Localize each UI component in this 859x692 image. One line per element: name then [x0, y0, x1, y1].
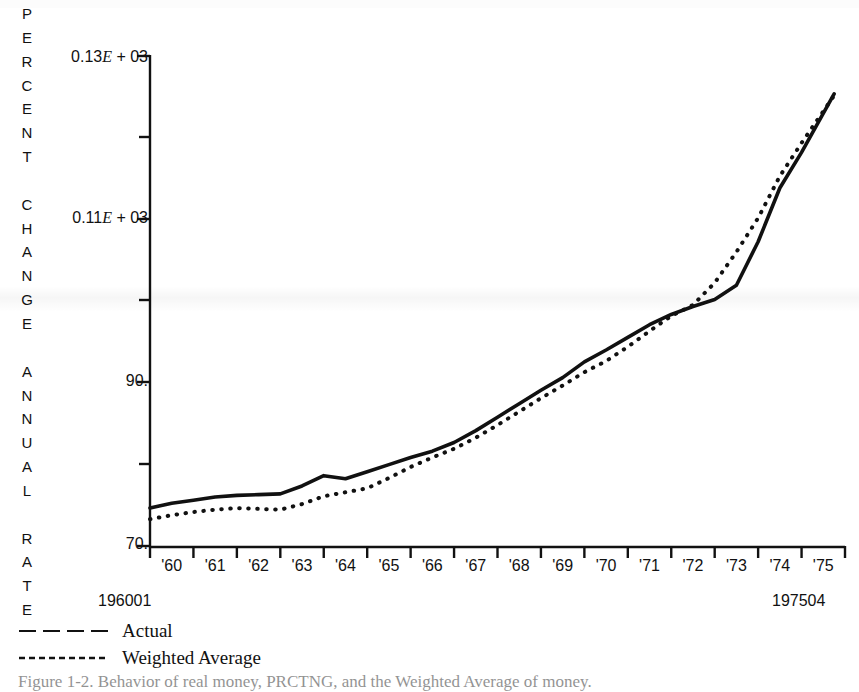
x-tick-label: '62	[237, 557, 280, 575]
x-tick-label: '71	[628, 557, 671, 575]
legend: Actual Weighted Average	[18, 617, 438, 671]
x-tick-label: '64	[324, 557, 367, 575]
series-line-weighted-average	[150, 96, 834, 520]
legend-item-actual[interactable]: Actual	[18, 617, 438, 644]
x-tick-label: '63	[280, 557, 323, 575]
y-minor-ticks	[139, 137, 150, 464]
x-tick-label: '61	[193, 557, 236, 575]
x-tick-label: '73	[715, 557, 758, 575]
axis-lines	[150, 55, 845, 547]
x-tick-label: '68	[498, 557, 541, 575]
figure-caption: Figure 1-2. Behavior of real money, PRCT…	[18, 672, 848, 692]
legend-label-actual: Actual	[122, 620, 173, 642]
x-tick-label: '66	[411, 557, 454, 575]
legend-swatch-actual	[18, 625, 110, 637]
x-tick-label: '65	[367, 557, 410, 575]
x-tick-label: '72	[671, 557, 714, 575]
series-line-actual	[150, 94, 834, 508]
legend-swatch-weighted-average	[18, 652, 110, 664]
x-tick-label: '69	[541, 557, 584, 575]
x-tick-label: '70	[584, 557, 627, 575]
x-tick-label: '75	[802, 557, 845, 575]
x-tick-label: '74	[758, 557, 801, 575]
legend-item-weighted-average[interactable]: Weighted Average	[18, 644, 438, 671]
legend-label-weighted-average: Weighted Average	[122, 647, 261, 669]
x-tick-label: '60	[150, 557, 193, 575]
x-tick-label: '67	[454, 557, 497, 575]
